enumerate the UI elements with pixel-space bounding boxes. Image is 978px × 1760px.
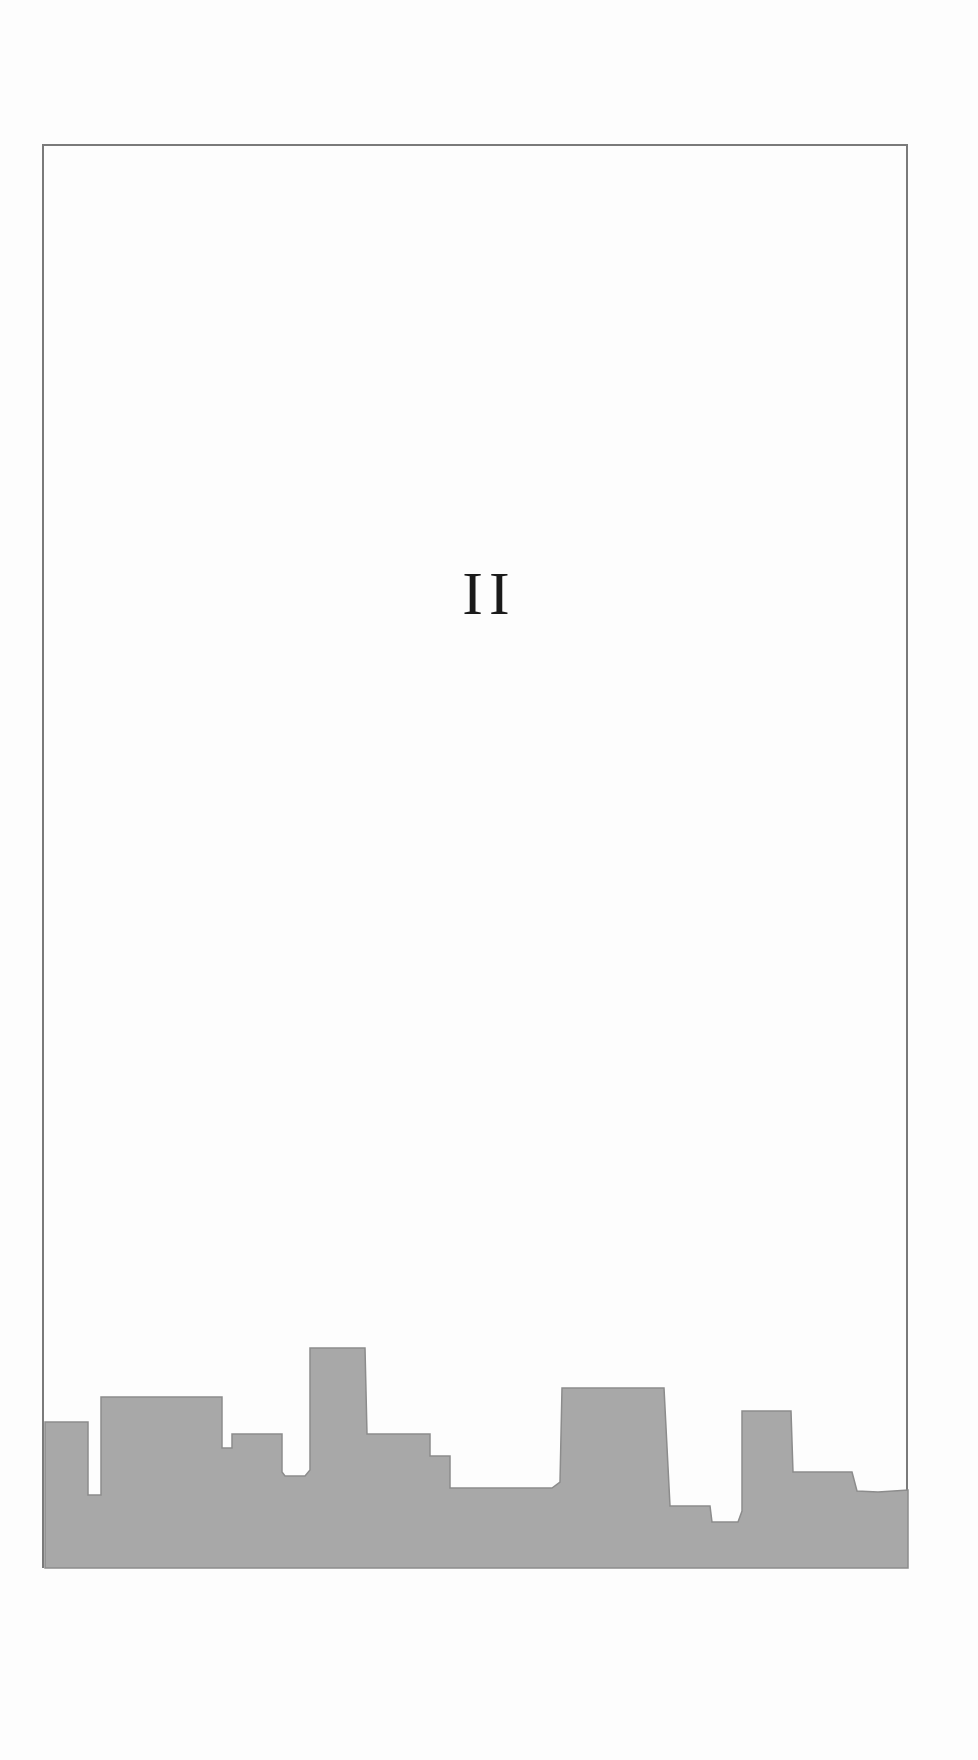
city-skyline-illustration	[0, 0, 978, 1760]
skyline-silhouette	[45, 1348, 908, 1568]
book-part-title-page: II	[0, 0, 978, 1760]
